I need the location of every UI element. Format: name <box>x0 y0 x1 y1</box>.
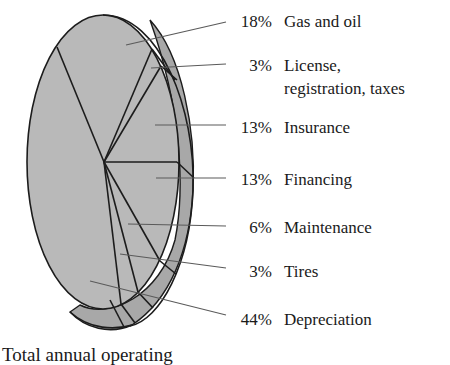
label-insurance: Insurance <box>284 118 350 138</box>
label-license-pct: 3% <box>212 56 272 76</box>
label-depreciation-pct: 44% <box>212 310 272 330</box>
chart-caption: Total annual operating <box>2 344 173 365</box>
label-gas-oil-pct: 18% <box>212 12 272 32</box>
label-tires: Tires <box>284 262 318 282</box>
label-financing: Financing <box>284 170 352 190</box>
label-financing-pct: 13% <box>212 170 272 190</box>
label-depreciation: Depreciation <box>284 310 372 330</box>
label-gas-oil: Gas and oil <box>284 12 361 32</box>
label-maintenance: Maintenance <box>284 218 372 238</box>
label-license-line2: registration, taxes <box>284 79 405 99</box>
label-insurance-pct: 13% <box>212 118 272 138</box>
label-tires-pct: 3% <box>212 262 272 282</box>
label-maintenance-pct: 6% <box>212 218 272 238</box>
label-license-line1: License, <box>284 56 341 76</box>
